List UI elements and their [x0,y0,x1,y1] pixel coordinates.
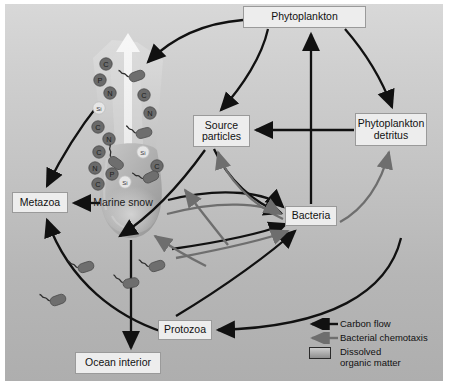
bacterium-cell [101,145,129,172]
nutrient-particle-si: Si [119,176,131,188]
svg-text:Si: Si [96,106,101,112]
legend-black-arrow-icon [306,318,340,330]
nutrient-particle-si: Si [137,146,149,158]
nutrient-particle-p: P [94,74,106,86]
legend: Carbon flow Bacterial chemotaxis Dissolv… [306,318,438,380]
legend-label-bacterial-chemotaxis: Bacterial chemotaxis [340,332,428,343]
bacterium-cell [113,270,139,291]
nutrient-particle-c: C [92,178,104,190]
bacterium-cell [40,286,68,309]
legend-gray-arrow-icon [306,332,340,344]
nutrient-particle-c: C [151,160,163,172]
legend-label-dom-line1: Dissolved [340,346,381,357]
legend-item-bacterial-chemotaxis: Bacterial chemotaxis [306,332,438,344]
node-phytoplankton[interactable]: Phytoplankton [243,6,366,28]
svg-text:P: P [98,76,103,85]
nutrient-particle-c: C [92,121,104,133]
nutrient-particle-p: P [106,168,118,180]
legend-dom-swatch-icon [306,346,340,358]
svg-text:C: C [95,180,101,189]
figure-root: CPNSiCNCNPCSiCNSiC Phytoplankton Source … [0,0,449,391]
svg-text:N: N [147,109,152,118]
svg-text:N: N [92,164,97,173]
svg-text:C: C [154,162,160,171]
nutrient-particle-c: C [93,146,105,158]
bacterium-cell [119,62,147,85]
legend-item-dissolved-organic-matter: Dissolved organic matter [306,346,438,368]
nutrient-particle-n: N [89,162,101,174]
bacterium-cell [139,253,166,276]
svg-text:C: C [95,123,101,132]
source-particles-line2: particles [202,130,241,142]
detritus-line2: detritus [374,129,408,141]
svg-text:C: C [96,148,102,157]
legend-label-carbon-flow: Carbon flow [340,318,391,329]
nutrient-particle-c: C [100,58,112,70]
svg-text:Si: Si [122,180,127,186]
svg-text:Si: Si [140,150,145,156]
legend-item-carbon-flow: Carbon flow [306,318,438,330]
nutrient-particle-c: C [138,89,150,101]
bacterium-cell [68,254,95,277]
source-particles-line1: Source [205,119,238,131]
bacterium-cell [126,120,153,142]
legend-label-dom-line2: organic matter [340,357,401,368]
nutrient-particle-si: Si [93,102,105,114]
node-source-particles[interactable]: Source particles [193,115,250,147]
nutrient-particle-n: N [103,133,115,145]
nutrient-particle-n: N [104,87,116,99]
detritus-line1: Phytoplankton [358,117,425,129]
node-protozoa[interactable]: Protozoa [158,320,212,340]
svg-text:C: C [103,60,109,69]
svg-text:C: C [141,91,147,100]
label-marine-snow: Marine snow [86,196,160,209]
node-metazoa[interactable]: Metazoa [12,192,68,213]
svg-text:N: N [107,89,112,98]
svg-text:N: N [106,135,111,144]
node-bacteria[interactable]: Bacteria [285,206,337,226]
node-phytoplankton-detritus[interactable]: Phytoplankton detritus [355,113,427,146]
nutrient-particle-n: N [144,107,156,119]
node-ocean-interior[interactable]: Ocean interior [75,352,161,374]
svg-text:P: P [110,170,115,179]
